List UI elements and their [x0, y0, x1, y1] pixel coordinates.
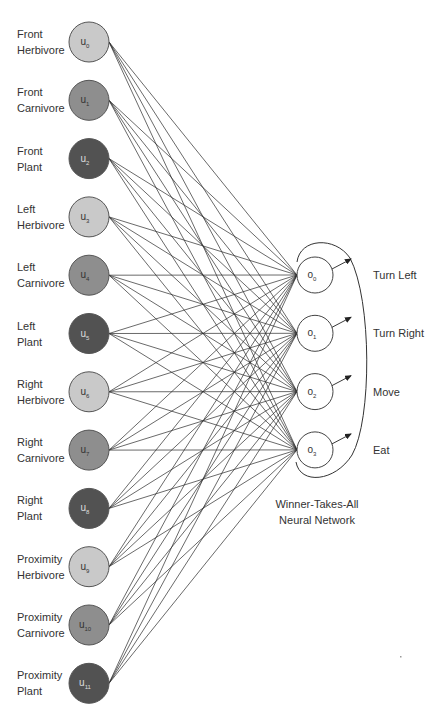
input-label-line2: Herbivore: [17, 392, 77, 408]
output-label-o1: Turn Right: [373, 326, 424, 340]
edge-u11-o2: [109, 392, 297, 684]
input-label-line1: Left: [17, 201, 77, 217]
connection-edges: [109, 42, 297, 683]
input-label-u0: FrontHerbivore: [17, 26, 77, 58]
output-node-o2: o2: [297, 374, 333, 410]
input-label-u7: RightCarnivore: [17, 434, 77, 466]
output-arrow-icon: [332, 434, 351, 444]
input-label-line2: Carnivore: [17, 275, 77, 291]
input-label-line2: Herbivore: [17, 567, 77, 583]
input-label-line2: Plant: [17, 508, 77, 524]
input-label-u9: ProximityHerbivore: [17, 551, 77, 583]
output-node-circle: [297, 374, 333, 410]
input-label-line1: Right: [17, 434, 77, 450]
input-label-line2: Plant: [17, 159, 77, 175]
input-layer: u0u1u2u3u4u5u6u7u8u9u10u11: [69, 22, 109, 703]
input-label-u11: ProximityPlant: [17, 667, 77, 699]
input-label-line1: Right: [17, 376, 77, 392]
output-node-o1: o1: [297, 315, 333, 351]
stray-dot: [400, 656, 402, 658]
input-label-line1: Left: [17, 318, 77, 334]
input-label-u8: RightPlant: [17, 492, 77, 524]
input-label-u3: LeftHerbivore: [17, 201, 77, 233]
output-label-o0: Turn Left: [373, 268, 417, 282]
input-label-line1: Left: [17, 259, 77, 275]
output-arrows: [332, 259, 351, 444]
input-label-u2: FrontPlant: [17, 143, 77, 175]
input-label-line2: Plant: [17, 683, 77, 699]
input-label-line2: Herbivore: [17, 42, 77, 58]
input-label-line1: Proximity: [17, 551, 77, 567]
caption-line-1: Winner-Takes-All: [257, 496, 377, 512]
input-label-line1: Right: [17, 492, 77, 508]
output-label-o3: Eat: [373, 443, 390, 457]
edge-u3-o0: [109, 217, 297, 275]
edge-u11-o0: [109, 275, 297, 683]
edge-u2-o0: [109, 159, 297, 275]
output-arrow-icon: [332, 317, 351, 327]
output-arrow-icon: [332, 259, 351, 269]
input-label-u10: ProximityCarnivore: [17, 609, 77, 641]
input-label-u1: FrontCarnivore: [17, 84, 77, 116]
input-label-line1: Proximity: [17, 609, 77, 625]
output-label-o2: Move: [373, 385, 400, 399]
network-caption: Winner-Takes-All Neural Network: [257, 496, 377, 528]
output-node-circle: [297, 257, 333, 293]
edge-u1-o0: [109, 100, 297, 275]
output-arrow-icon: [332, 376, 351, 386]
input-label-line2: Herbivore: [17, 217, 77, 233]
input-label-line1: Proximity: [17, 667, 77, 683]
output-layer: o0o1o2o3: [297, 257, 333, 468]
input-label-line2: Carnivore: [17, 625, 77, 641]
input-label-u5: LeftPlant: [17, 318, 77, 350]
input-label-line1: Front: [17, 84, 77, 100]
output-node-circle: [297, 432, 333, 468]
output-node-o3: o3: [297, 432, 333, 468]
input-label-u6: RightHerbivore: [17, 376, 77, 408]
edge-u11-o3: [109, 450, 297, 683]
input-label-line2: Plant: [17, 334, 77, 350]
input-label-line2: Carnivore: [17, 450, 77, 466]
caption-line-2: Neural Network: [257, 512, 377, 528]
input-label-line1: Front: [17, 143, 77, 159]
input-label-line1: Front: [17, 26, 77, 42]
input-label-u4: LeftCarnivore: [17, 259, 77, 291]
input-label-line2: Carnivore: [17, 100, 77, 116]
output-node-o0: o0: [297, 257, 333, 293]
edge-u0-o0: [109, 42, 297, 275]
output-node-circle: [297, 315, 333, 351]
